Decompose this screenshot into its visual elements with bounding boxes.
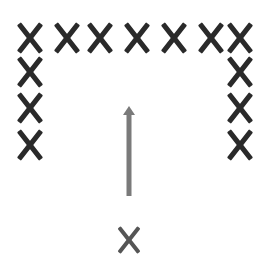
x-mark-icon bbox=[17, 23, 43, 53]
x-mark-icon bbox=[161, 23, 187, 53]
x-mark-icon bbox=[198, 23, 224, 53]
x-mark-icon bbox=[87, 23, 113, 53]
x-mark-icon bbox=[17, 57, 43, 87]
x-mark-icon bbox=[227, 23, 253, 53]
diagram-canvas bbox=[0, 0, 268, 267]
bottom-x-mark-icon bbox=[116, 225, 142, 255]
x-mark-icon bbox=[124, 23, 150, 53]
up-arrow-icon bbox=[122, 106, 136, 196]
x-mark-icon bbox=[17, 130, 43, 160]
x-mark-icon bbox=[227, 130, 253, 160]
x-mark-icon bbox=[227, 93, 253, 123]
x-mark-icon bbox=[54, 23, 80, 53]
x-mark-icon bbox=[17, 93, 43, 123]
x-mark-icon bbox=[227, 57, 253, 87]
